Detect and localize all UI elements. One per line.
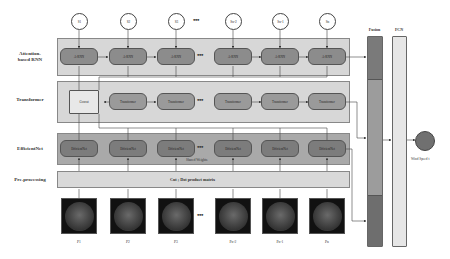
caption-p3: P3 — [158, 240, 194, 244]
input-s3: S3 — [168, 13, 185, 30]
satellite-image-p2 — [110, 198, 146, 234]
efficientnet-node-1: EfficientNet — [60, 140, 98, 157]
fusion-bar — [367, 36, 383, 247]
input-s1: S1 — [71, 13, 88, 30]
input-sn-1: Sn-1 — [272, 13, 289, 30]
satellite-image-p3 — [158, 198, 194, 234]
ellipsis-efficientnet: ••• — [197, 143, 203, 151]
satellite-image-pn-2 — [215, 198, 251, 234]
caption-pn: Pn — [309, 240, 345, 244]
ellipsis-rnn: ••• — [197, 51, 203, 59]
wind-speed-label: Wind Speed t — [411, 157, 429, 161]
fusion-label: Fusion — [366, 27, 383, 32]
caption-pn-2: Pn-2 — [215, 240, 251, 244]
hurricane-image-icon — [266, 202, 295, 231]
ellipsis-images: ••• — [197, 211, 203, 219]
hurricane-image-icon — [313, 202, 342, 231]
caption-p1: P1 — [61, 240, 97, 244]
efficientnet-node-4: EfficientNet — [214, 140, 252, 157]
efficientnet-node-5: EfficientNet — [261, 140, 299, 157]
hurricane-image-icon — [219, 202, 248, 231]
rnn-node-3: A-RNN — [157, 48, 195, 65]
fcn-label: FCN — [391, 27, 407, 32]
satellite-image-pn-1 — [262, 198, 298, 234]
fusion-segment-efficientnet — [368, 195, 382, 246]
transformer-node-5: Transformer — [308, 93, 346, 110]
input-sn: Sn — [319, 13, 336, 30]
satellite-image-p1 — [61, 198, 97, 234]
transformer-node-3: Transformer — [214, 93, 252, 110]
caption-p2: P2 — [110, 240, 146, 244]
hurricane-image-icon — [162, 202, 191, 231]
input-sn-2: Sn-2 — [225, 13, 242, 30]
efficientnet-node-6: EfficientNet — [308, 140, 346, 157]
ellipsis-s: ••• — [193, 16, 199, 24]
ellipsis-transformer: ••• — [197, 96, 203, 104]
preprocessing-text: Cut ; Dot product matrix — [170, 177, 215, 182]
rnn-node-6: A-RNN — [308, 48, 346, 65]
efficientnet-node-2: EfficientNet — [109, 140, 147, 157]
transformer-node-1: Transformer — [109, 93, 147, 110]
wind-speed-output-node — [415, 131, 435, 151]
caption-pn-1: Pn-1 — [262, 240, 298, 244]
rnn-node-2: A-RNN — [109, 48, 147, 65]
rnn-node-5: A-RNN — [261, 48, 299, 65]
shared-weights-label: Shared Weights — [186, 158, 207, 162]
concat-node: Concat — [69, 90, 99, 114]
rnn-node-4: A-RNN — [214, 48, 252, 65]
fcn-bar — [392, 36, 407, 247]
fusion-segment-rnn — [368, 37, 382, 80]
hurricane-image-icon — [65, 202, 94, 231]
transformer-node-4: Transformer — [261, 93, 299, 110]
input-s2: S2 — [120, 13, 137, 30]
efficientnet-node-3: EfficientNet — [157, 140, 195, 157]
satellite-image-pn — [309, 198, 345, 234]
transformer-node-2: Transformer — [157, 93, 195, 110]
rnn-node-1: A-RNN — [60, 48, 98, 65]
hurricane-image-icon — [114, 202, 143, 231]
